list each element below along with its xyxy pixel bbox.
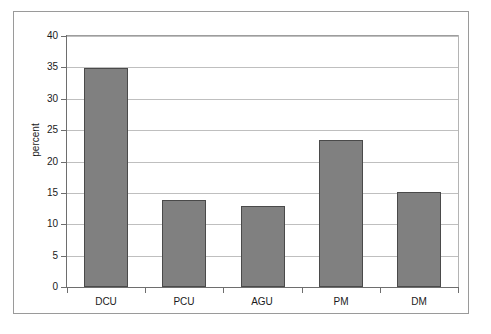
x-axis-tick-mark: [145, 288, 146, 293]
x-axis-category-label-pcu: PCU: [145, 296, 223, 308]
x-axis-category-label-dcu: DCU: [67, 296, 145, 308]
y-axis-tick-mark: [61, 193, 66, 194]
x-axis-tick-mark: [223, 288, 224, 293]
y-axis-tick-mark: [61, 287, 66, 288]
x-axis-line: [66, 287, 459, 288]
y-axis-tick-mark: [61, 130, 66, 131]
x-axis-tick-mark: [458, 288, 459, 293]
bar-dcu: [84, 68, 128, 287]
bar-pm: [319, 140, 363, 287]
y-axis-tick-mark: [61, 256, 66, 257]
x-axis-tick-mark: [380, 288, 381, 293]
y-axis-tick-label: 0: [12, 282, 58, 292]
plot-border-right: [458, 35, 459, 288]
y-axis-tick-mark: [61, 224, 66, 225]
y-axis-tick-mark: [61, 99, 66, 100]
y-axis-tick-label: 20: [12, 157, 58, 167]
y-axis-tick-mark: [61, 162, 66, 163]
bar-dm: [397, 192, 441, 287]
plot-area: [67, 36, 458, 287]
y-axis-tick-label-group: 4035302520151050: [10, 0, 58, 334]
gridline: [67, 36, 458, 37]
y-axis-tick-label: 25: [12, 125, 58, 135]
x-axis-category-label-dm: DM: [380, 296, 458, 308]
x-axis-category-label-agu: AGU: [223, 296, 301, 308]
y-axis-tick-label: 40: [12, 31, 58, 41]
y-axis-tick-label: 35: [12, 62, 58, 72]
y-axis-tick-label: 15: [12, 188, 58, 198]
x-axis-tick-mark: [67, 288, 68, 293]
y-axis-tick-mark: [61, 67, 66, 68]
y-axis-tick-mark: [61, 36, 66, 37]
bar-agu: [241, 206, 285, 287]
x-axis-category-label-pm: PM: [302, 296, 380, 308]
bar-pcu: [162, 200, 206, 287]
y-axis-tick-label: 10: [12, 219, 58, 229]
y-axis-tick-label: 30: [12, 94, 58, 104]
y-axis-tick-label: 5: [12, 251, 58, 261]
x-axis-tick-mark: [302, 288, 303, 293]
